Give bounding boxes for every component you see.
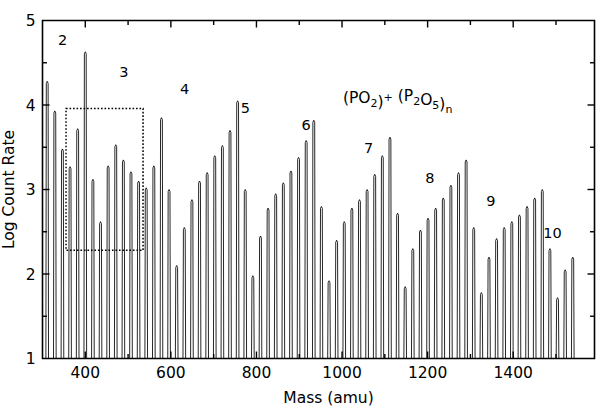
peak-number-labels: 2345678910 <box>58 32 562 242</box>
y-tick-label: 1 <box>26 350 36 368</box>
y-tick-label: 3 <box>26 181 36 199</box>
peak-label-3: 3 <box>119 64 128 80</box>
peak-label-8: 8 <box>425 170 434 186</box>
spectrum-trace <box>43 52 595 359</box>
mass-spectrum-figure: 400600800100012001400 12345 2345678910 (… <box>0 0 610 410</box>
y-tick-label: 5 <box>26 12 36 30</box>
chemical-formula-annotation: (PO2)+ (P2O5)n <box>343 87 452 116</box>
peak-label-5: 5 <box>241 100 250 116</box>
peak-label-7: 7 <box>364 140 373 156</box>
peak-label-9: 9 <box>486 193 495 209</box>
x-tick-label: 400 <box>70 364 100 382</box>
chart-canvas: 400600800100012001400 12345 2345678910 (… <box>0 0 610 410</box>
x-tick-label: 1200 <box>408 364 447 382</box>
y-axis-title: Log Count Rate <box>0 130 18 249</box>
peak-label-2: 2 <box>58 32 67 48</box>
y-axis-ticks <box>43 63 595 317</box>
y-tick-label: 2 <box>26 266 36 284</box>
x-axis-tick-labels: 400600800100012001400 <box>70 364 532 382</box>
y-axis-tick-labels: 12345 <box>26 12 36 368</box>
x-axis-title: Mass (amu) <box>283 389 373 407</box>
peak-label-4: 4 <box>180 81 189 97</box>
x-tick-label: 1000 <box>322 364 361 382</box>
peak-label-6: 6 <box>301 117 310 133</box>
x-tick-label: 600 <box>156 364 186 382</box>
x-tick-label: 1400 <box>493 364 532 382</box>
y-tick-label: 4 <box>26 97 36 115</box>
peak-label-10: 10 <box>543 225 561 241</box>
x-tick-label: 800 <box>242 364 272 382</box>
